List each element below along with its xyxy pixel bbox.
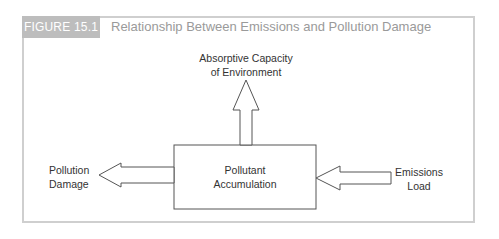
- arrow-incoming-icon: [316, 166, 391, 190]
- node-left-label: Pollution Damage: [49, 163, 89, 191]
- node-top-label: Absorptive Capacity of Environment: [196, 51, 296, 79]
- node-right-label: Emissions Load: [392, 165, 446, 193]
- arrow-up-icon: [233, 80, 259, 145]
- node-center-label: Pollutant Accumulation: [174, 163, 316, 191]
- diagram-shapes: [0, 0, 499, 239]
- arrow-left-icon: [99, 163, 174, 187]
